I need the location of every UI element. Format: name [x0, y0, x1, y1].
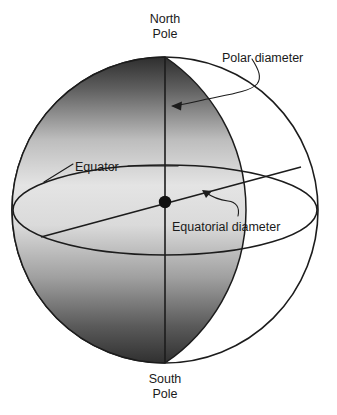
earth-sphere-diagram: North Pole Polar diameter Equator Equato… [0, 0, 337, 415]
south-pole-label-line2: Pole [152, 387, 177, 401]
north-pole-label-line2: Pole [152, 27, 177, 41]
equatorial-diameter-label: Equatorial diameter [172, 220, 280, 234]
diagram-canvas: North Pole Polar diameter Equator Equato… [0, 0, 337, 415]
equator-label: Equator [75, 160, 119, 174]
polar-diameter-label: Polar diameter [222, 51, 303, 65]
terminator-crescent [12, 57, 246, 363]
sphere-center-dot [159, 196, 171, 208]
north-pole-label-line1: North [150, 12, 181, 26]
south-pole-label-line1: South [149, 372, 182, 386]
